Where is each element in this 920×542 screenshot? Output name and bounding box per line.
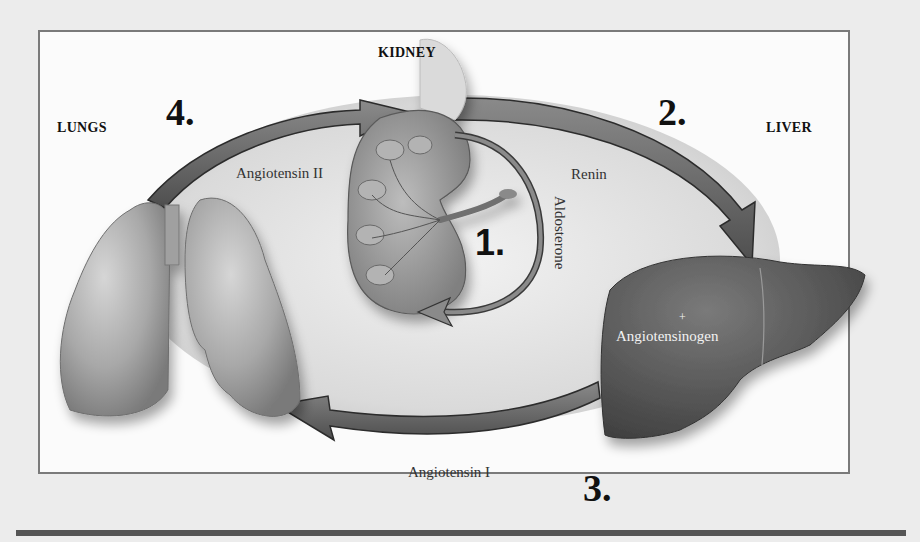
organ-label-liver: LIVER	[766, 120, 812, 136]
step-number-4: 4.	[166, 90, 195, 134]
hormone-label-angiotensin-ii: Angiotensin II	[236, 165, 323, 182]
step-number-3: 3.	[583, 466, 612, 510]
bottom-rule	[16, 530, 906, 536]
step-number-1: 1.	[475, 222, 505, 264]
liver-illustration	[601, 256, 865, 438]
liver-label-angiotensinogen: Angiotensinogen	[616, 328, 719, 345]
step-number-2: 2.	[658, 90, 687, 134]
organ-label-kidney: KIDNEY	[378, 45, 436, 61]
liver-plus-mark: +	[679, 310, 686, 325]
organ-label-lungs: LUNGS	[57, 120, 107, 136]
hormone-label-angiotensin-i: Angiotensin I	[408, 464, 490, 481]
hormone-label-renin: Renin	[571, 166, 607, 183]
hormone-label-aldosterone: Aldosterone	[551, 196, 568, 269]
raas-diagram-graphic	[0, 0, 920, 542]
